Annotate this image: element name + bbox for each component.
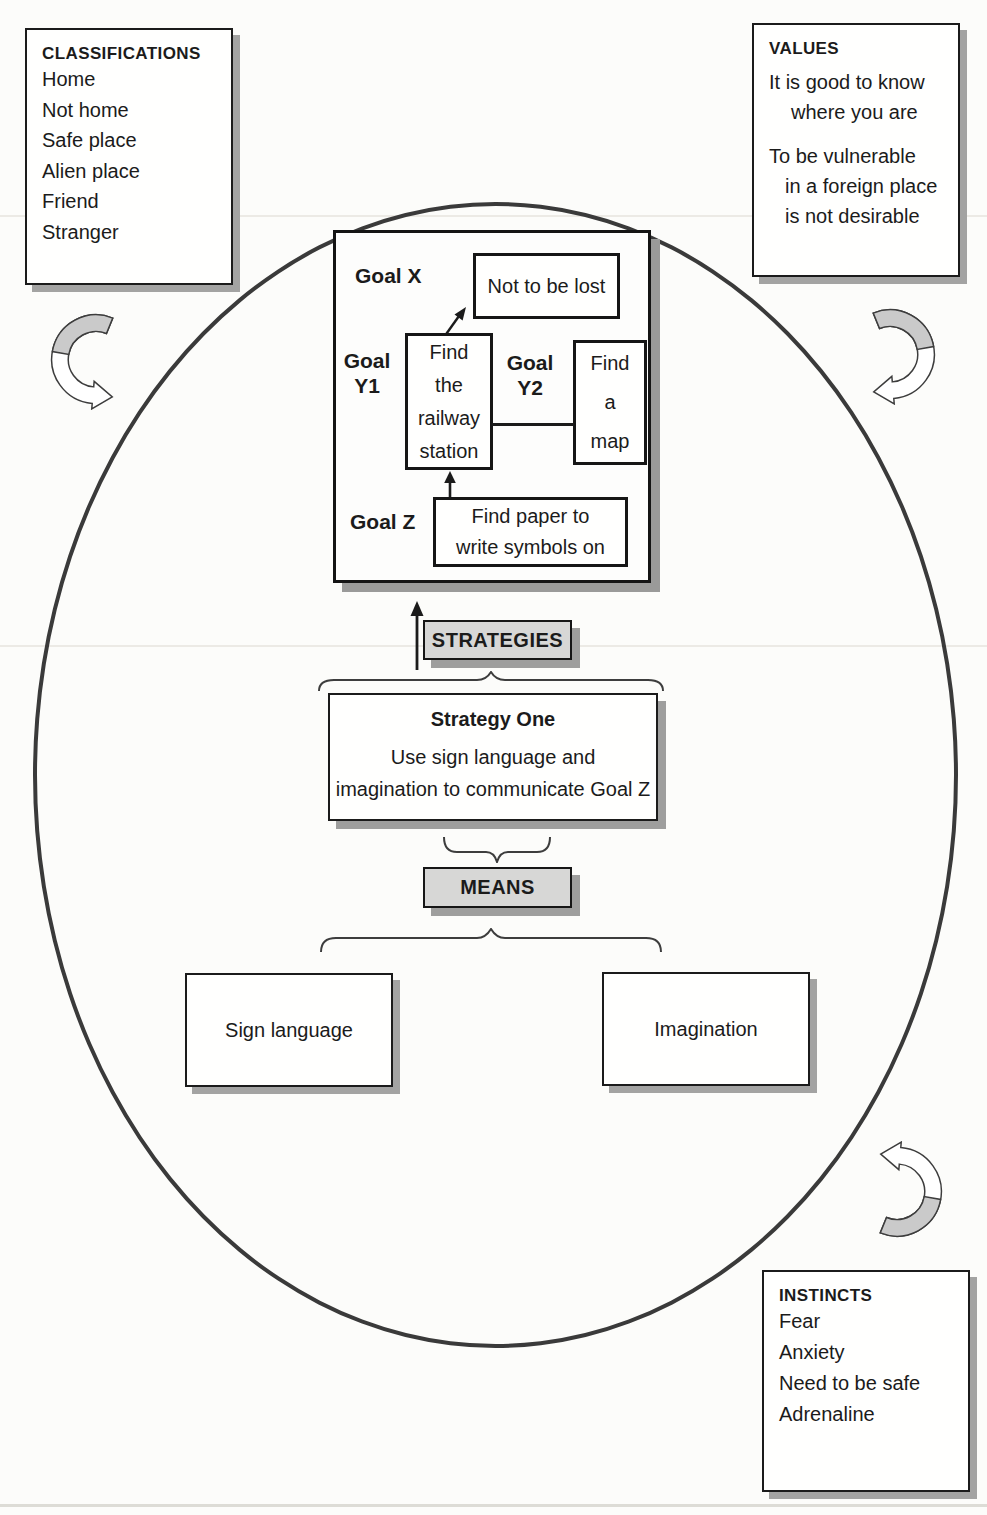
strategies-label-box: STRATEGIES: [423, 620, 572, 660]
classification-item: Not home: [42, 95, 217, 126]
sign-language-box: Sign language: [185, 973, 393, 1087]
up-arrow-icon: [441, 470, 459, 498]
goal-y1-label: Goal Y1: [336, 348, 398, 398]
goal-y2-label: Goal Y2: [498, 350, 562, 400]
goal-y1-box: Find the railway station: [405, 333, 493, 470]
classification-item: Stranger: [42, 217, 217, 248]
values-line: is not desirable: [769, 201, 944, 231]
goal-y2-box: Find a map: [573, 340, 647, 465]
strategy-one-box: Strategy One Use sign language and imagi…: [328, 693, 658, 821]
goal-x-label: Goal X: [355, 264, 422, 288]
goal-x-box: Not to be lost: [473, 253, 620, 319]
classification-item: Alien place: [42, 156, 217, 187]
goals-panel: Goal X Not to be lost Goal Y1 Find the r…: [333, 230, 651, 583]
goal-x-box-text: Not to be lost: [488, 275, 606, 298]
instinct-item: Fear: [779, 1306, 954, 1337]
classifications-title: CLASSIFICATIONS: [42, 44, 217, 64]
values-line: It is good to know: [769, 67, 944, 97]
classification-item: Home: [42, 64, 217, 95]
instinct-item: Anxiety: [779, 1337, 954, 1368]
instincts-title: INSTINCTS: [779, 1286, 954, 1306]
curved-arrow-icon: [864, 298, 938, 416]
brace-down-icon: [443, 836, 551, 863]
instinct-item: Need to be safe: [779, 1368, 954, 1399]
values-line: in a foreign place: [769, 171, 944, 201]
instincts-box: INSTINCTS Fear Anxiety Need to be safe A…: [762, 1270, 970, 1492]
classifications-box: CLASSIFICATIONS Home Not home Safe place…: [25, 28, 233, 285]
scanned-diagram-page: CLASSIFICATIONS Home Not home Safe place…: [0, 0, 987, 1515]
strategy-one-line: Use sign language and: [330, 741, 656, 773]
classification-item: Friend: [42, 186, 217, 217]
brace-up-icon: [318, 671, 664, 692]
scan-artifact-line: [0, 1504, 987, 1507]
goal-z-box: Find paper to write symbols on: [433, 497, 628, 567]
curved-arrow-icon: [871, 1130, 945, 1248]
values-title: VALUES: [769, 39, 944, 59]
values-box: VALUES It is good to know where you are …: [752, 23, 960, 277]
strategy-one-title: Strategy One: [330, 708, 656, 731]
brace-up-icon: [320, 928, 662, 953]
values-line: To be vulnerable: [769, 141, 944, 171]
values-line: where you are: [769, 97, 944, 127]
instinct-item: Adrenaline: [779, 1399, 954, 1430]
classification-item: Safe place: [42, 125, 217, 156]
curved-arrow-icon: [48, 303, 122, 421]
strategy-one-line: imagination to communicate Goal Z: [330, 773, 656, 805]
means-label-box: MEANS: [423, 867, 572, 908]
goal-z-label: Goal Z: [350, 510, 415, 534]
imagination-box: Imagination: [602, 972, 810, 1086]
connector-line: [492, 423, 574, 426]
